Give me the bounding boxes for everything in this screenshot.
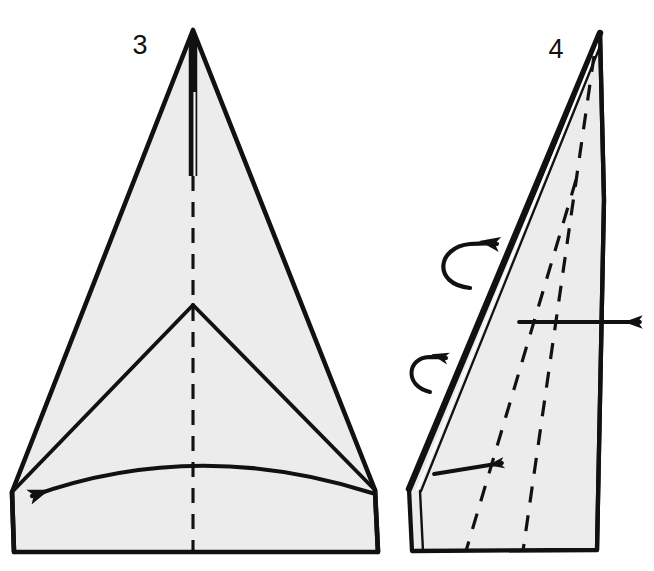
origami-diagram: 3 4 bbox=[0, 0, 654, 571]
step-3-base-left-edge bbox=[12, 492, 14, 552]
step-3-figure: 3 bbox=[12, 30, 378, 552]
step-3-number: 3 bbox=[132, 30, 147, 60]
origami-instruction-illustration: 3 4 bbox=[0, 0, 654, 571]
step-3-base-right-edge bbox=[375, 490, 378, 552]
step-4-figure: 4 bbox=[409, 33, 640, 551]
step-4-number: 4 bbox=[548, 34, 563, 64]
curl-arrow-lower bbox=[411, 357, 446, 392]
curl-arrow-upper bbox=[443, 243, 497, 288]
